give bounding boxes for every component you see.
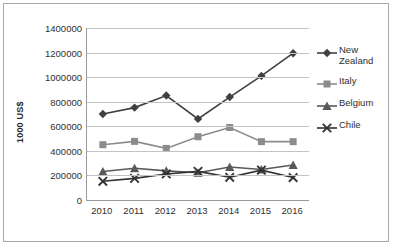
x-legend-icon <box>316 120 338 132</box>
y-axis-tick-label: 1200000 <box>24 47 82 58</box>
chart-frame: 1000 US$ 0200000400000600000800000100000… <box>3 3 389 242</box>
x-axis-tick-label: 2012 <box>155 205 176 216</box>
square-marker <box>324 81 331 88</box>
y-axis-tick-label: 200000 <box>24 170 82 181</box>
y-axis-tick-label: 800000 <box>24 96 82 107</box>
square-legend-icon <box>316 76 338 88</box>
legend-item-label: New Zealand <box>338 44 390 66</box>
y-axis-tick-label: 1400000 <box>24 23 82 34</box>
y-axis-tick-label: 1000000 <box>24 72 82 83</box>
diamond-legend-icon <box>316 45 338 57</box>
legend-item-label: Italy <box>338 75 356 86</box>
x-axis-tick-label: 2010 <box>91 205 112 216</box>
x-axis-tick-label: 2011 <box>123 205 143 216</box>
x-axis-tick-label: 2016 <box>282 205 303 216</box>
legend-item-label: Chile <box>338 119 361 130</box>
x-axis-tick-label: 2014 <box>218 205 239 216</box>
y-axis-tick-labels: 0200000400000600000800000100000012000001… <box>24 4 82 247</box>
x-axis-tick-labels: 2010201120122013201420152016 <box>86 4 308 247</box>
diamond-marker <box>323 49 331 57</box>
legend-item-label: Belgium <box>338 97 373 108</box>
legend-item[interactable]: Chile <box>316 119 390 132</box>
legend-item[interactable]: New Zealand <box>316 44 390 66</box>
triangle-legend-icon <box>316 98 338 110</box>
y-axis-tick-label: 400000 <box>24 145 82 156</box>
legend-item[interactable]: Belgium <box>316 97 390 110</box>
y-axis-tick-label: 0 <box>24 195 82 206</box>
x-axis-tick-label: 2015 <box>250 205 271 216</box>
legend-item[interactable]: Italy <box>316 75 390 88</box>
y-axis-tick-label: 600000 <box>24 121 82 132</box>
chart-legend: New ZealandItalyBelgiumChile <box>316 44 390 141</box>
x-axis-tick-label: 2013 <box>186 205 207 216</box>
